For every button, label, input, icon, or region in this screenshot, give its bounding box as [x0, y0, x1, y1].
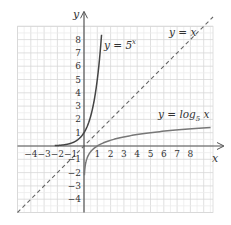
- x-tick-label: −3: [37, 149, 51, 159]
- y-axis-label: y: [72, 8, 80, 21]
- exp-curve-label: y = 5x: [103, 38, 136, 51]
- x-tick-label: 4: [134, 149, 140, 159]
- x-tick-label: 3: [121, 149, 127, 159]
- x-axis-label: x: [212, 152, 219, 165]
- y-tick-label: −3: [68, 181, 82, 191]
- x-tick-label: −2: [51, 149, 64, 159]
- function-graph: −4−3−2−11234567887654321−1−2−3−4 x y y =…: [0, 0, 231, 225]
- y-tick-label: 8: [75, 35, 81, 45]
- y-tick-label: −4: [68, 194, 82, 204]
- y-tick-label: 2: [75, 114, 81, 124]
- y-tick-label: 1: [75, 128, 81, 138]
- y-tick-label: 7: [75, 48, 81, 58]
- x-tick-label: 7: [174, 149, 180, 159]
- y-tick-label: 6: [75, 61, 81, 71]
- identity-line-label: y = x: [168, 26, 196, 38]
- x-tick-label: −4: [24, 149, 38, 159]
- y-tick-label: −2: [68, 168, 81, 178]
- x-tick-label: 8: [188, 149, 194, 159]
- x-tick-label: 1: [94, 149, 100, 159]
- x-tick-label: 5: [148, 149, 154, 159]
- x-tick-label: 6: [161, 149, 167, 159]
- log-curve-label: y = log5 x: [157, 108, 210, 123]
- y-tick-label: 4: [75, 88, 81, 98]
- x-tick-label: 2: [108, 149, 114, 159]
- y-tick-label: −1: [68, 154, 81, 164]
- y-tick-label: 5: [75, 75, 81, 85]
- y-tick-label: 3: [75, 101, 81, 111]
